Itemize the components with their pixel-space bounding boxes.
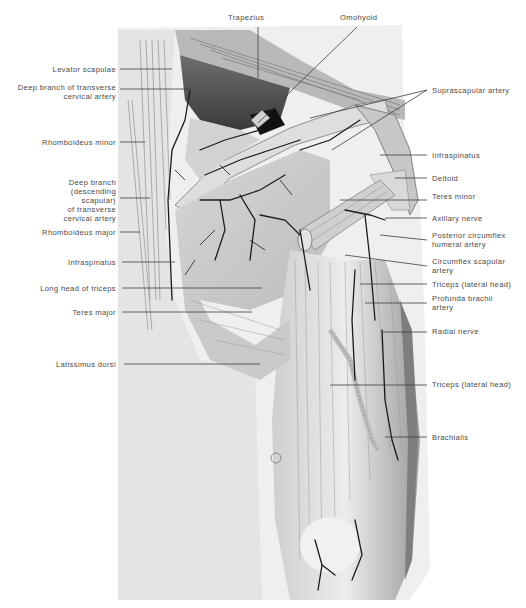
label-line: Deep branch	[63, 178, 116, 187]
label-latissimus-dorsi: Latissimus dorsi	[56, 360, 116, 369]
label-line: (descending	[63, 187, 116, 196]
label-trapezius: Trapezius	[228, 13, 264, 22]
label-levator-scapulae: Levator scapulae	[53, 65, 116, 74]
label-teres-major: Teres major	[72, 308, 116, 317]
label-brachialis: Brachialis	[432, 433, 468, 442]
label-line: artery	[432, 266, 505, 275]
label-posterior-circumflex-humeral-artery: Posterior circumflex humeral artery	[432, 231, 506, 249]
label-deltoid: Deltoid	[432, 174, 458, 183]
label-long-head-of-triceps: Long head of triceps	[40, 284, 116, 293]
label-line: cervical artery	[18, 92, 116, 101]
label-omohyoid: Omohyoid	[340, 13, 377, 22]
label-deep-branch-descending-scapular: Deep branch (descending scapular) of tra…	[63, 178, 116, 223]
label-deep-branch-transverse-cervical-artery: Deep branch of transverse cervical arter…	[18, 83, 116, 101]
label-suprascapular-artery: Suprascapular artery	[432, 86, 510, 95]
label-profunda-brachii-artery: Profunda brachii artery	[432, 294, 493, 312]
label-axillary-nerve: Axillary nerve	[432, 214, 482, 223]
label-infraspinatus-right: Infraspinatus	[432, 151, 480, 160]
label-rhomboideus-minor: Rhomboideus minor	[42, 138, 116, 147]
label-infraspinatus-left: Infraspinatus	[68, 258, 116, 267]
label-teres-minor: Teres minor	[432, 192, 476, 201]
label-line: humeral artery	[432, 240, 506, 249]
label-line: Profunda brachii	[432, 294, 493, 303]
label-triceps-lateral-head-upper: Triceps (lateral head)	[432, 280, 511, 289]
label-radial-nerve: Radial nerve	[432, 327, 479, 336]
label-triceps-lateral-head-lower: Triceps (lateral head)	[432, 380, 511, 389]
label-line: of transverse	[63, 205, 116, 214]
label-circumflex-scapular-artery: Circumflex scapular artery	[432, 257, 505, 275]
label-line: Posterior circumflex	[432, 231, 506, 240]
anatomical-figure: Trapezius Omohyoid Levator scapulae Deep…	[0, 0, 526, 608]
label-line: artery	[432, 303, 493, 312]
label-line: scapular)	[63, 196, 116, 205]
label-line: cervical artery	[63, 214, 116, 223]
label-line: Circumflex scapular	[432, 257, 505, 266]
label-rhomboideus-major: Rhomboideus major	[42, 228, 116, 237]
label-line: Deep branch of transverse	[18, 83, 116, 92]
